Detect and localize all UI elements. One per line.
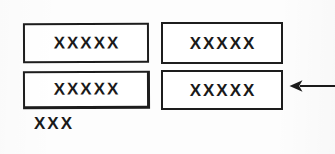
redacted-text-bottom-left: XXXXX (52, 80, 121, 97)
redacted-text-top-right: XXXXX (188, 34, 257, 51)
redacted-text-top-left: XXXXX (52, 34, 121, 51)
redacted-box-bottom-right: XXXXX (161, 70, 283, 110)
redacted-box-top-right: XXXXX (161, 22, 283, 64)
redacted-box-bottom-left: XXXXX (23, 71, 150, 110)
document-canvas: XXXXX XXXXX XXXXX XXXXX XXX (0, 0, 335, 154)
redacted-caption-label: XXX (34, 115, 74, 132)
arrow-left-icon (289, 77, 335, 95)
redacted-text-bottom-right: XXXXX (188, 81, 257, 98)
redacted-box-top-left: XXXXX (23, 23, 149, 63)
